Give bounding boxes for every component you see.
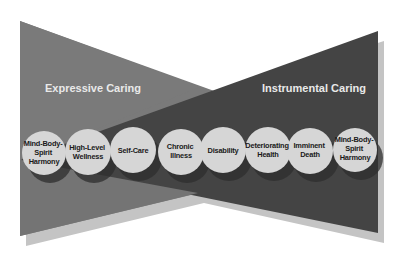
stage-label-disability: Disability [208, 146, 240, 155]
instrumental-caring-label: Instrumental Caring [262, 82, 366, 94]
stage-label-high-level-wellness: High-Level Wellness [69, 143, 107, 161]
stage-label-self-care: Self-Care [118, 146, 149, 155]
stage-label-chronic-illness: Chronic Illness [167, 142, 195, 160]
caring-continuum-diagram: Expressive Caring Instrumental Caring [0, 0, 396, 259]
expressive-caring-label: Expressive Caring [45, 82, 141, 94]
